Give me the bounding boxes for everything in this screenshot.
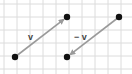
point-p1	[12, 54, 18, 60]
point-p2	[64, 14, 70, 20]
vector-label-v: v	[28, 32, 33, 42]
point-p3	[64, 54, 70, 60]
vector-label-neg-v: − v	[74, 32, 87, 42]
vector-diagram: v − v	[0, 0, 132, 74]
grid	[0, 0, 132, 74]
vector-arrow-v	[15, 19, 64, 57]
point-p4	[116, 14, 122, 20]
